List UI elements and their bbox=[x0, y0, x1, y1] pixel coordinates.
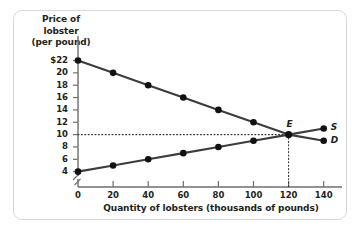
equilibrium-label: E bbox=[287, 119, 293, 129]
marker-S-0 bbox=[75, 168, 82, 175]
y-tick-label-10: 10 bbox=[38, 129, 68, 139]
marker-D-60 bbox=[180, 94, 187, 101]
marker-S-140 bbox=[320, 125, 327, 132]
marker-equilibrium bbox=[285, 131, 292, 138]
y-tick-label-20: 20 bbox=[38, 67, 68, 77]
marker-D-40 bbox=[145, 82, 152, 89]
y-tick-marks bbox=[73, 61, 78, 172]
equilibrium-guide-lines bbox=[78, 135, 289, 187]
marker-D-100 bbox=[250, 119, 257, 126]
y-axis-break-icon bbox=[73, 174, 81, 185]
x-tick-marks bbox=[113, 181, 324, 187]
x-tick-label-100: 100 bbox=[242, 190, 266, 200]
curve-lines bbox=[78, 61, 324, 172]
x-tick-label-140: 140 bbox=[312, 190, 336, 200]
marker-S-60 bbox=[180, 150, 187, 157]
x-tick-label-0: 0 bbox=[66, 190, 90, 200]
x-tick-label-40: 40 bbox=[136, 190, 160, 200]
y-tick-label-6: 6 bbox=[38, 154, 68, 164]
y-tick-label-4: 4 bbox=[38, 166, 68, 176]
marker-D-20 bbox=[110, 70, 117, 77]
x-tick-label-120: 120 bbox=[277, 190, 301, 200]
y-tick-label-16: 16 bbox=[38, 92, 68, 102]
marker-S-40 bbox=[145, 156, 152, 163]
figure-supply-demand-lobster: Price of lobster (per pound) Quantity of… bbox=[0, 0, 360, 232]
curve-label-S: S bbox=[331, 122, 337, 132]
y-tick-label-14: 14 bbox=[38, 104, 68, 114]
y-tick-label-8: 8 bbox=[38, 141, 68, 151]
marker-S-80 bbox=[215, 144, 222, 151]
x-tick-label-60: 60 bbox=[171, 190, 195, 200]
data-point-markers bbox=[75, 57, 327, 175]
marker-D-0 bbox=[75, 57, 82, 64]
curve-label-D: D bbox=[331, 135, 338, 145]
y-tick-label-18: 18 bbox=[38, 80, 68, 90]
y-tick-label-12: 12 bbox=[38, 117, 68, 127]
marker-S-20 bbox=[110, 162, 117, 169]
x-tick-label-80: 80 bbox=[206, 190, 230, 200]
marker-S-100 bbox=[250, 137, 257, 144]
marker-D-80 bbox=[215, 107, 222, 114]
marker-D-140 bbox=[320, 137, 327, 144]
y-tick-label-22: $22 bbox=[38, 55, 68, 65]
x-tick-label-20: 20 bbox=[101, 190, 125, 200]
